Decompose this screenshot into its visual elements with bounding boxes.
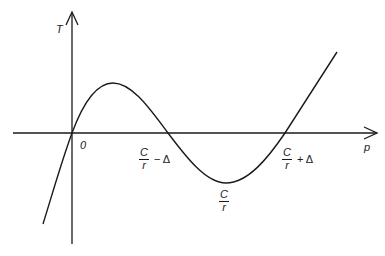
- origin-label: 0: [80, 140, 86, 151]
- y-axis-label: T: [56, 24, 63, 35]
- minimum-label: C r: [219, 189, 229, 213]
- fraction-denominator: r: [222, 202, 226, 214]
- fraction-denominator: r: [142, 160, 146, 172]
- curve: [43, 52, 337, 224]
- fraction-numerator: C: [282, 147, 292, 160]
- intercept-label-minus: C r − Δ: [139, 147, 170, 171]
- fraction-operator: + Δ: [297, 153, 313, 165]
- x-axis-label: p: [364, 142, 370, 153]
- diagram-canvas: [0, 0, 385, 256]
- fraction-denominator: r: [285, 160, 289, 172]
- fraction-numerator: C: [219, 189, 229, 202]
- fraction-operator: − Δ: [154, 153, 170, 165]
- intercept-label-plus: C r + Δ: [282, 147, 313, 171]
- fraction-numerator: C: [139, 147, 149, 160]
